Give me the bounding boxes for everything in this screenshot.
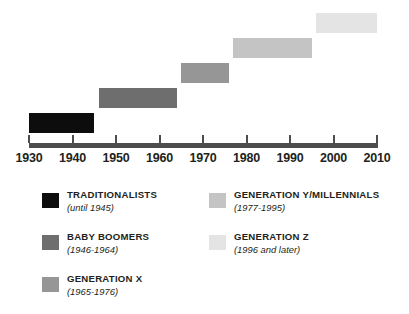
legend-item-title: TRADITIONALISTS <box>67 188 157 201</box>
generation-timeline-chart: 193019401950196019701980199020002010 <box>0 0 409 170</box>
axis-tick <box>202 135 204 143</box>
legend-item-years: (1977-1995) <box>234 201 379 214</box>
legend-item: BABY BOOMERS(1946-1964) <box>42 230 207 272</box>
axis-tick-label: 2000 <box>311 151 357 165</box>
legend-item: GENERATION X(1965-1976) <box>42 272 207 314</box>
axis-tick-label: 1960 <box>137 151 183 165</box>
legend-color-swatch <box>42 235 59 250</box>
timeline-bar <box>181 63 229 83</box>
legend-item-title: GENERATION Y/MILLENNIALS <box>234 188 379 201</box>
legend-item-title: BABY BOOMERS <box>67 230 149 243</box>
axis-tick <box>376 135 378 143</box>
legend-column-right: GENERATION Y/MILLENNIALS(1977-1995)GENER… <box>209 188 405 272</box>
legend-item: GENERATION Y/MILLENNIALS(1977-1995) <box>209 188 405 230</box>
legend-item-years: (1996 and later) <box>234 243 309 256</box>
axis-tick-label: 1990 <box>267 151 313 165</box>
axis-line <box>29 143 378 148</box>
axis-tick <box>159 135 161 143</box>
legend-text-block: GENERATION Z(1996 and later) <box>234 230 309 256</box>
axis-tick-label: 1940 <box>50 151 96 165</box>
axis-tick <box>333 135 335 143</box>
legend-text-block: GENERATION X(1965-1976) <box>67 272 142 298</box>
axis-tick <box>115 135 117 143</box>
axis-tick <box>246 135 248 143</box>
timeline-bar <box>29 113 94 133</box>
axis-tick-label: 1950 <box>93 151 139 165</box>
legend-item-years: (1965-1976) <box>67 285 142 298</box>
legend-color-swatch <box>209 193 226 208</box>
legend-text-block: GENERATION Y/MILLENNIALS(1977-1995) <box>234 188 379 214</box>
legend-color-swatch <box>42 193 59 208</box>
axis-tick-label: 2010 <box>354 151 400 165</box>
timeline-bar <box>316 13 377 33</box>
axis-tick-label: 1930 <box>6 151 52 165</box>
legend-item-title: GENERATION Z <box>234 230 309 243</box>
legend-item-title: GENERATION X <box>67 272 142 285</box>
legend-color-swatch <box>42 277 59 292</box>
legend-item: GENERATION Z(1996 and later) <box>209 230 405 272</box>
legend-item-years: (1946-1964) <box>67 243 149 256</box>
legend-item-years: (until 1945) <box>67 201 157 214</box>
chart-legend: TRADITIONALISTS(until 1945)BABY BOOMERS(… <box>0 188 409 314</box>
legend-text-block: TRADITIONALISTS(until 1945) <box>67 188 157 214</box>
legend-item: TRADITIONALISTS(until 1945) <box>42 188 207 230</box>
timeline-bar <box>99 88 177 108</box>
legend-text-block: BABY BOOMERS(1946-1964) <box>67 230 149 256</box>
timeline-bar <box>233 38 311 58</box>
legend-color-swatch <box>209 235 226 250</box>
axis-tick-label: 1970 <box>180 151 226 165</box>
axis-tick <box>28 135 30 143</box>
axis-tick <box>289 135 291 143</box>
axis-tick-label: 1980 <box>224 151 270 165</box>
legend-column-left: TRADITIONALISTS(until 1945)BABY BOOMERS(… <box>42 188 207 314</box>
axis-tick <box>72 135 74 143</box>
